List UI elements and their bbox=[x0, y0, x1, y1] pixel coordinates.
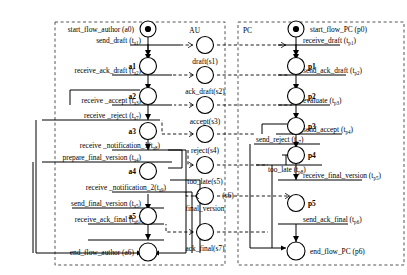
place-a6 bbox=[139, 243, 157, 261]
transition-label-ta9: receive _notification_2(ta9) bbox=[86, 183, 167, 193]
zone-label-pc: PC bbox=[243, 26, 252, 35]
transition-label-tp1: receive_draft (tp1) bbox=[303, 36, 356, 46]
transition-label-ta5: send_final_version (ta5) bbox=[71, 199, 141, 209]
place-p6 bbox=[287, 242, 305, 260]
transition-label-tp5: receive_final_version (tp5) bbox=[303, 171, 381, 181]
place-s4 bbox=[197, 126, 214, 143]
petri-net-diagram: AU PC bbox=[0, 0, 407, 275]
transition-label-tp6: send_ack_final (tp6) bbox=[303, 215, 362, 225]
transition-label-ta3: receive _accept (ta3) bbox=[82, 96, 142, 106]
transition-label-tp2: send_ack_draft (tp2) bbox=[303, 66, 363, 76]
place-label-p4: p4 bbox=[308, 151, 316, 160]
place-s1 bbox=[197, 37, 214, 54]
place-label-s4: reject(s4) bbox=[191, 146, 219, 155]
place-label-a6: end_flow_author (a6) bbox=[70, 248, 135, 257]
place-p3 bbox=[288, 118, 305, 135]
pc-transition-labels: receive_draft (tp1) send_ack_draft (tp2)… bbox=[256, 36, 381, 225]
place-label-s3: accept(s3) bbox=[190, 117, 221, 126]
place-a3 bbox=[140, 123, 157, 140]
place-p1 bbox=[288, 58, 305, 75]
transition-label-ta1: send_draft (ta1) bbox=[96, 36, 141, 46]
place-label-p5: p5 bbox=[308, 199, 316, 208]
place-a1 bbox=[140, 58, 157, 75]
place-s6 bbox=[197, 188, 214, 205]
place-label-s1: draft(s1) bbox=[192, 57, 218, 66]
token-p0 bbox=[293, 26, 299, 32]
place-p5 bbox=[288, 195, 305, 212]
place-s3 bbox=[197, 97, 214, 114]
transition-label-tp7: send_reject (tp7) bbox=[256, 135, 304, 145]
place-label-p0: start_flow_PC (p0) bbox=[310, 25, 367, 34]
transition-label-tp4: send_accept (tp4) bbox=[303, 125, 354, 135]
transition-label-ta2: receive_ack_draft (ta2) bbox=[74, 66, 141, 76]
token-a0 bbox=[145, 26, 151, 32]
place-a2 bbox=[140, 88, 157, 105]
zone-label-au: AU bbox=[189, 26, 200, 35]
place-s5 bbox=[197, 157, 214, 174]
place-s7 bbox=[197, 224, 214, 241]
place-a4 bbox=[140, 163, 157, 180]
place-label-a3: a3 bbox=[129, 127, 137, 136]
place-label-s6-id: (s6) bbox=[222, 191, 234, 200]
place-s2 bbox=[197, 67, 214, 84]
place-label-s5: too_late(s5) bbox=[187, 177, 223, 186]
transition-label-ta4: prepare_final_version (ta4) bbox=[63, 153, 142, 163]
place-label-s7: ack_final(s7) bbox=[186, 244, 226, 253]
place-p4 bbox=[288, 147, 305, 164]
transition-label-ta7: receive _reject (ta7) bbox=[84, 111, 141, 121]
place-label-a0: start_flow_author (a0) bbox=[68, 25, 135, 34]
transition-label-ta8: receive _notification_1(ta8) bbox=[80, 141, 161, 151]
place-label-a4: a4 bbox=[129, 167, 137, 176]
transition-label-tp3: evaluate (tp3) bbox=[303, 96, 342, 106]
place-p2 bbox=[288, 88, 305, 105]
transition-label-ta6: receive_ack_final (ta6) bbox=[75, 215, 142, 225]
place-label-p6: end_flow_PC (p6) bbox=[310, 247, 365, 256]
transition-label-tp8: too_late (tp8) bbox=[268, 165, 306, 175]
place-label-s6: final_version bbox=[186, 204, 225, 213]
place-label-s2: ack_draft(s2) bbox=[185, 87, 225, 96]
place-a5 bbox=[140, 208, 157, 225]
diagram-canvas: AU PC bbox=[0, 0, 407, 275]
